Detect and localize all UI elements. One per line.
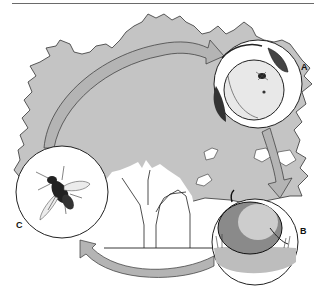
stage-label-b: B: [300, 226, 307, 236]
stage-b-illustration: [212, 190, 298, 285]
stage-a-illustration: [214, 40, 302, 128]
stage-c-illustration: [16, 146, 108, 238]
stage-label-a: A: [301, 62, 308, 72]
stage-label-c: C: [16, 220, 23, 230]
life-cycle-diagram: [0, 0, 320, 289]
